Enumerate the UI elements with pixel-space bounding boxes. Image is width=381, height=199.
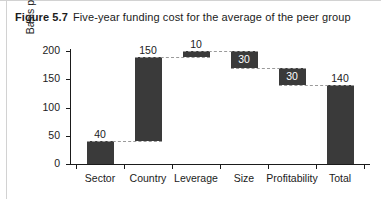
bar-value-label: 30	[272, 71, 312, 82]
waterfall-connector-line	[279, 85, 354, 86]
y-axis-tick-label: 100	[34, 101, 60, 113]
x-axis-tick-mark	[76, 165, 77, 169]
x-axis-tick-mark	[220, 165, 221, 169]
bar-value-label: 30	[224, 54, 264, 65]
chart-plot-area: Basis points 05010015020040Sector150Coun…	[0, 0, 381, 199]
y-axis-tick-label: 150	[34, 72, 60, 84]
y-axis-tick-mark	[66, 136, 70, 137]
waterfall-connector-line	[183, 51, 258, 52]
x-axis-tick-mark	[316, 165, 317, 169]
x-axis-tick-mark	[364, 165, 365, 169]
figure-container: Figure 5.7Five-year funding cost for the…	[0, 0, 381, 199]
y-axis-tick-mark	[66, 164, 70, 165]
y-axis-tick-label: 50	[34, 129, 60, 141]
waterfall-connector-line	[135, 57, 210, 58]
waterfall-connector-line	[231, 68, 306, 69]
bar-value-label: 140	[320, 72, 360, 84]
chart-bar	[87, 141, 114, 164]
y-axis-tick-mark	[66, 51, 70, 52]
x-axis-tick-mark	[172, 165, 173, 169]
y-axis-tick-mark	[66, 108, 70, 109]
bar-value-label: 10	[176, 38, 216, 50]
y-axis-tick-label: 0	[34, 157, 60, 169]
y-axis-tick-mark	[66, 79, 70, 80]
waterfall-connector-line	[87, 141, 162, 142]
x-axis-tick-mark	[268, 165, 269, 169]
y-axis-tick-label: 200	[34, 44, 60, 56]
bar-value-label: 40	[80, 128, 120, 140]
chart-bar	[135, 57, 162, 142]
x-axis-category-label: Total	[300, 172, 380, 184]
bar-value-label: 150	[128, 44, 168, 56]
chart-bar	[327, 85, 354, 164]
y-axis-line	[70, 49, 71, 165]
x-axis-tick-mark	[124, 165, 125, 169]
